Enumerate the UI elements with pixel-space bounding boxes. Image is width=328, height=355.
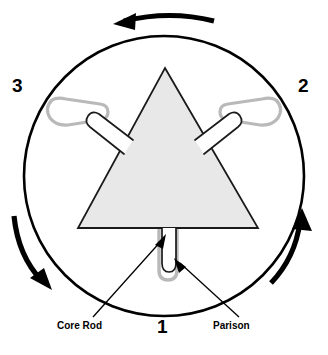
molding-process-diagram [0,0,328,355]
station-number-1: 1 [157,317,168,336]
callout-label-parison: Parison [213,321,250,331]
station-number-3: 3 [12,76,23,95]
core-rod-station-3 [86,112,133,154]
mold-triangle [78,68,258,228]
station-number-2: 2 [298,76,309,95]
leader-line-core-rod [93,234,166,317]
core-rod-station-1 [162,228,176,272]
rotation-arrow-right [271,208,312,283]
rotation-arrow-top [113,13,214,30]
diagram-canvas: 3 2 1 Core Rod Parison [0,0,328,355]
callout-label-core-rod: Core Rod [57,321,102,331]
